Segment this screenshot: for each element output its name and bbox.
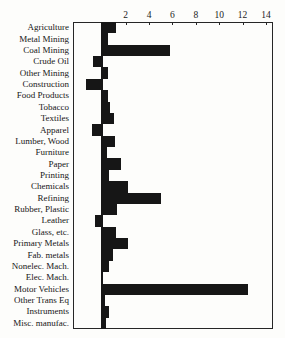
x-axis-tick-mark [196,22,197,25]
zero-axis-line [101,22,103,329]
category-label: Tobacco [0,102,69,113]
x-axis-tick-label: 8 [193,10,198,20]
category-label: Printing [0,170,69,181]
category-label: Textiles [0,113,69,124]
x-axis-tick-label: 10 [214,10,224,20]
bar [102,193,160,204]
category-label: Food Products [0,90,69,101]
x-axis-tick-label: 4 [147,10,152,20]
x-axis-tick-mark [149,22,150,25]
bar-chart: 2468101214AgricultureMetal MiningCoal Mi… [0,0,285,338]
bar [102,284,248,295]
x-axis-tick-mark [172,22,173,25]
bar [102,204,117,215]
bar [102,136,115,147]
bar [102,306,109,317]
category-label: Elec. Mach. [0,272,69,283]
category-label: Crude Oil [0,56,69,67]
category-label: Glass, etc. [0,227,69,238]
category-label: Lumber, Wood [0,136,69,147]
bar [102,45,170,56]
category-label: Furniture [0,147,69,158]
bar [102,102,110,113]
category-label: Chemicals [0,181,69,192]
x-axis-tick-mark [243,22,244,25]
category-label: Leather [0,215,69,226]
category-label: Paper [0,159,69,170]
category-label: Metal Mining [0,34,69,45]
category-label: Construction [0,79,69,90]
bar [102,22,116,33]
bar [102,261,109,272]
category-label: Misc. manufac. [0,318,69,329]
category-label: Other Trans Eq [0,295,69,306]
x-axis-tick-label: 6 [170,10,175,20]
category-label: Other Mining [0,68,69,79]
bar [102,227,116,238]
category-label: Refining [0,193,69,204]
category-label: Rubber, Plastic [0,204,69,215]
category-label: Coal Mining [0,45,69,56]
bar [102,181,128,192]
category-label: Fab. metals [0,250,69,261]
bar [86,79,102,90]
category-label: Instruments [0,306,69,317]
category-label: Apparel [0,125,69,136]
x-axis-tick-label: 2 [123,10,128,20]
x-axis-tick-label: 12 [238,10,248,20]
x-axis-tick-mark [126,22,127,25]
x-axis-tick-mark [266,22,267,25]
category-label: Agriculture [0,22,69,33]
bar [102,113,114,124]
category-label: Motor Vehicles [0,284,69,295]
category-label: Nonelec. Mach. [0,261,69,272]
x-axis-tick-mark [219,22,220,25]
bar [102,238,128,249]
bar [102,158,121,169]
bar [102,249,113,260]
x-axis-tick-label: 14 [261,10,271,20]
bar [102,170,109,181]
category-label: Primary Metals [0,238,69,249]
